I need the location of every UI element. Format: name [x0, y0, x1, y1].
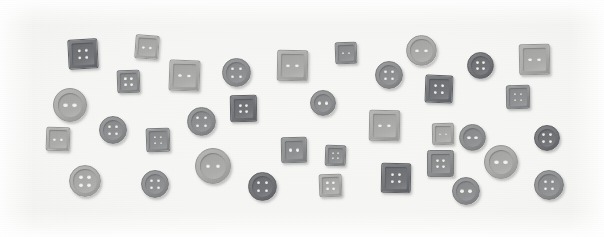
button-round-2hole	[195, 148, 231, 184]
button-inner-recess	[431, 154, 451, 174]
button-hole	[503, 160, 507, 164]
button-hole	[549, 133, 552, 136]
button-hole	[157, 186, 160, 189]
button-hole	[108, 125, 111, 128]
button-hole	[79, 175, 82, 178]
button-square-4hole	[381, 163, 412, 194]
button-hole	[60, 138, 63, 141]
button-hole	[542, 140, 545, 143]
button-hole	[391, 173, 394, 176]
button-inner-recess	[281, 54, 304, 77]
button-inner-recess	[385, 167, 407, 189]
button-hole	[332, 152, 334, 154]
button-hole	[204, 124, 207, 127]
button-hole	[150, 179, 153, 182]
button-round-4hole	[534, 125, 560, 151]
button-square-2hole	[369, 110, 401, 142]
button-square-2hole	[281, 137, 307, 163]
button-hole	[295, 64, 299, 68]
button-hole	[325, 101, 328, 104]
button-hole	[476, 67, 479, 70]
button-hole	[115, 132, 118, 135]
button-inner-recess	[322, 177, 339, 194]
button-round-4hole	[187, 107, 216, 136]
button-round-2hole	[452, 177, 480, 205]
button-hole	[468, 189, 472, 193]
button-hole	[130, 83, 133, 86]
button-photo-scene	[0, 0, 604, 237]
button-hole	[494, 160, 498, 164]
button-hole	[265, 189, 268, 192]
button-hole	[130, 77, 133, 80]
button-inner-recess	[252, 176, 273, 197]
button-hole	[549, 140, 552, 143]
button-inner-recess	[338, 45, 355, 62]
button-hole	[424, 49, 428, 53]
button-hole	[149, 46, 152, 49]
button-square-4hole	[425, 75, 454, 104]
button-hole	[436, 159, 439, 162]
button-hole	[72, 103, 76, 107]
button-square-2hole	[432, 123, 454, 145]
button-hole	[150, 186, 153, 189]
button-round-4hole	[375, 61, 403, 89]
button-square-2hole	[277, 50, 309, 82]
button-inner-recess	[435, 126, 451, 142]
button-round-2hole	[484, 145, 518, 179]
button-hole	[537, 57, 541, 61]
button-hole	[87, 183, 90, 186]
button-hole	[441, 91, 444, 94]
button-square-2hole	[46, 127, 71, 152]
button-hole	[87, 175, 90, 178]
button-hole	[239, 75, 242, 78]
button-inner-recess	[410, 39, 433, 62]
button-inner-recess	[73, 169, 96, 192]
button-round-2hole	[459, 124, 486, 151]
button-hole	[474, 136, 477, 139]
button-hole	[544, 180, 547, 183]
button-hole	[384, 70, 387, 73]
button-hole	[326, 181, 329, 184]
button-hole	[391, 70, 394, 73]
button-square-2hole	[519, 44, 551, 76]
button-inner-recess	[138, 38, 157, 57]
button-square-4hole	[427, 150, 454, 177]
button-hole	[53, 137, 56, 140]
button-round-4hole	[248, 172, 277, 201]
button-hole	[124, 83, 127, 86]
button-hole	[476, 61, 479, 64]
button-hole	[387, 124, 391, 128]
button-hole	[187, 74, 191, 78]
button-hole	[332, 187, 335, 190]
button-hole	[384, 77, 387, 80]
button-hole	[436, 165, 439, 168]
button-inner-recess	[233, 98, 253, 118]
button-round-4hole	[222, 58, 251, 87]
button-hole	[239, 104, 242, 107]
button-square-4hole	[325, 145, 347, 167]
button-hole	[442, 159, 445, 162]
button-square-4hole	[230, 95, 257, 122]
button-inner-recess	[149, 131, 167, 149]
button-hole	[115, 125, 118, 128]
button-hole	[467, 136, 470, 139]
button-hole	[441, 84, 444, 87]
button-inner-recess	[523, 48, 546, 71]
button-square-4hole	[506, 85, 530, 109]
button-round-4hole	[534, 170, 564, 200]
button-hole	[391, 77, 394, 80]
button-inner-recess	[173, 64, 196, 87]
button-hole	[124, 77, 127, 80]
button-inner-recess	[373, 114, 396, 137]
button-hole	[326, 187, 329, 190]
photo-surface	[0, 0, 604, 237]
button-round-4hole	[467, 52, 494, 79]
button-round-2hole	[406, 35, 437, 66]
button-square-4hole	[146, 128, 171, 153]
button-hole	[332, 181, 335, 184]
button-hole	[245, 104, 248, 107]
button-inner-recess	[538, 174, 560, 196]
button-round-4hole	[69, 165, 101, 197]
button-hole	[289, 148, 292, 151]
button-inner-recess	[191, 111, 212, 132]
